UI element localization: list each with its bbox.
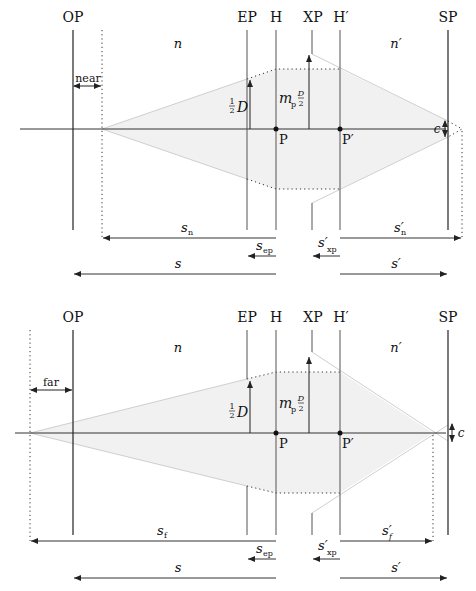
svg-text:s: s bbox=[157, 523, 164, 538]
depth-of-field-diagram: OP EP H XP H′ SP n n′ near 1 2 D m p D 2 bbox=[0, 0, 476, 591]
near-label: near bbox=[75, 72, 101, 85]
sf-label: s f bbox=[157, 523, 168, 540]
near-limit-diagram: OP EP H XP H′ SP n n′ near 1 2 D m p D 2 bbox=[20, 9, 462, 274]
h-prime-label: H′ bbox=[333, 309, 348, 325]
sxp-label: s′ xp bbox=[318, 235, 337, 254]
sep-label: s ep bbox=[256, 238, 273, 255]
image-medium-index: n′ bbox=[390, 36, 401, 51]
ep-label: EP bbox=[237, 9, 257, 25]
far-label: far bbox=[43, 376, 60, 389]
half-aperture-label: 1 2 D bbox=[229, 97, 248, 115]
svg-text:1: 1 bbox=[229, 402, 234, 411]
sn-prime-label: s′ n bbox=[394, 220, 406, 237]
s-label: s bbox=[175, 560, 182, 575]
svg-text:s: s bbox=[256, 238, 263, 253]
svg-text:p: p bbox=[291, 100, 296, 109]
sp-label: SP bbox=[438, 9, 457, 25]
svg-text:2: 2 bbox=[298, 404, 303, 413]
svg-text:ep: ep bbox=[263, 246, 273, 255]
svg-text:D: D bbox=[236, 99, 248, 115]
xp-label: XP bbox=[303, 9, 322, 25]
s-prime-label: s′ bbox=[391, 560, 401, 575]
svg-text:D: D bbox=[297, 89, 305, 98]
s-label: s bbox=[175, 256, 182, 271]
p-label: P bbox=[279, 132, 288, 147]
svg-text:s: s bbox=[181, 220, 188, 235]
sp-label: SP bbox=[438, 309, 457, 325]
half-aperture-label: 1 2 D bbox=[229, 402, 248, 420]
p-prime-label: P′ bbox=[342, 132, 354, 147]
svg-text:f: f bbox=[164, 531, 168, 540]
svg-text:2: 2 bbox=[229, 106, 234, 115]
svg-text:xp: xp bbox=[327, 548, 337, 557]
svg-text:2: 2 bbox=[229, 411, 234, 420]
principal-point-p bbox=[274, 127, 279, 132]
xp-label: XP bbox=[303, 309, 322, 325]
svg-text:f: f bbox=[388, 532, 394, 541]
svg-text:1: 1 bbox=[229, 97, 234, 106]
sep-label: s ep bbox=[256, 541, 273, 558]
p-prime-label: P′ bbox=[342, 436, 354, 451]
svg-text:n: n bbox=[188, 228, 193, 237]
h-label: H bbox=[270, 9, 282, 25]
principal-point-p-prime bbox=[338, 127, 343, 132]
sxp-label: s′ xp bbox=[318, 538, 337, 557]
object-medium-index: n bbox=[174, 340, 182, 355]
op-label: OP bbox=[63, 9, 84, 25]
far-limit-diagram: OP EP H XP H′ SP n n′ far 1 2 D m p D 2 … bbox=[15, 309, 465, 578]
svg-text:D: D bbox=[297, 394, 305, 403]
image-medium-index: n′ bbox=[390, 340, 401, 355]
defocus-cone-tip bbox=[448, 121, 462, 137]
coc-label: c bbox=[458, 426, 465, 440]
h-prime-label: H′ bbox=[333, 9, 348, 25]
object-medium-index: n bbox=[174, 36, 182, 51]
ep-label: EP bbox=[237, 309, 257, 325]
sn-label: s n bbox=[181, 220, 193, 237]
svg-text:ep: ep bbox=[263, 549, 273, 558]
svg-text:xp: xp bbox=[327, 245, 337, 254]
svg-text:2: 2 bbox=[298, 99, 303, 108]
op-label: OP bbox=[63, 309, 84, 325]
sf-prime-label: s′ f bbox=[382, 523, 394, 541]
svg-text:n: n bbox=[401, 228, 406, 237]
principal-point-p-prime bbox=[338, 431, 343, 436]
svg-text:D: D bbox=[236, 404, 248, 420]
h-label: H bbox=[270, 309, 282, 325]
s-prime-label: s′ bbox=[391, 256, 401, 271]
p-label: P bbox=[279, 436, 288, 451]
svg-text:p: p bbox=[291, 405, 296, 414]
coc-label: c bbox=[434, 122, 441, 136]
principal-point-p bbox=[274, 431, 279, 436]
svg-text:s: s bbox=[256, 541, 263, 556]
